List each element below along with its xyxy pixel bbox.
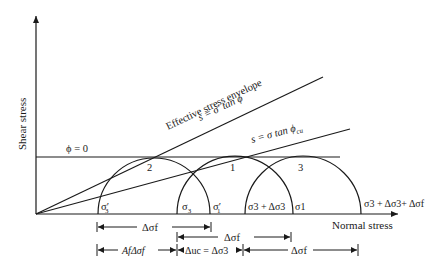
sigma1-effective-label: σ′1 [213,201,221,215]
mohr-circle-2 [98,158,210,214]
dimension-delta-sigma-f-1: Δσf [97,222,211,233]
mohr-circle-diagram: Shear stress Normal stress Effective str… [0,0,443,270]
dimension-row-3: AfΔσf Δuc = Δσ3 Δσf [97,244,358,256]
delta-sigma-f-3-label: Δσf [291,245,307,256]
delta-uc-label: Δuc = Δσ3 [185,245,228,256]
sigma3-plus-delta3-label: σ3 + Δσ3 [248,201,285,212]
circle-3-label: 3 [298,162,303,173]
sigma3-effective-label: σ′3 [101,201,109,215]
sigma3-label: σ3 [182,201,192,215]
sigma-final-label: σ3 + Δσ3+ Δσf [364,198,425,209]
y-axis-label: Shear stress [16,98,28,150]
phi-zero-label: ϕ = 0 [66,143,88,154]
circle-2-label: 2 [147,162,152,173]
circle-1-label: 1 [230,162,235,173]
af-delta-sigma-f-label: AfΔσf [121,245,146,256]
dimension-delta-sigma-f-2: Δσf [177,232,291,243]
svg-text:Δσf: Δσf [142,222,158,233]
svg-text:Δσf: Δσf [224,232,240,243]
x-axis-label: Normal stress [332,219,393,231]
sigma1-label: σ1 [295,201,305,212]
